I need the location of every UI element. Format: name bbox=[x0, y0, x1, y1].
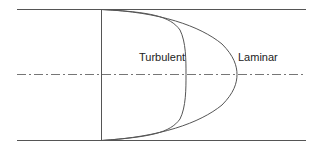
turbulent-profile bbox=[102, 10, 187, 141]
laminar-profile bbox=[102, 10, 238, 141]
turbulent-label: Turbulent bbox=[139, 52, 185, 63]
pipe-flow-diagram bbox=[0, 0, 320, 147]
laminar-label: Laminar bbox=[238, 52, 278, 63]
